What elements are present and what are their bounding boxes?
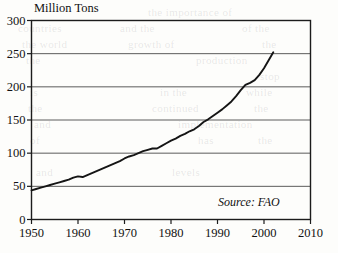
x-axis-tick-label: 1950 — [12, 226, 52, 241]
x-axis-tick-label: 2000 — [244, 226, 284, 241]
y-axis-tick-label: 150 — [0, 113, 26, 128]
y-axis-tick-label: 250 — [0, 46, 26, 61]
x-axis-tick-label: 1970 — [105, 226, 145, 241]
gridlines — [32, 54, 311, 187]
x-axis-tick-label: 1990 — [198, 226, 238, 241]
plot-area — [0, 0, 338, 253]
y-axis-tick-label: 100 — [0, 146, 26, 161]
chart-figure: the importance ofcountriesand theof thet… — [0, 0, 338, 253]
y-axis-tick-label: 50 — [0, 179, 26, 194]
y-axis-tick-label: 300 — [0, 13, 26, 28]
x-axis-tick-label: 2010 — [291, 226, 331, 241]
x-axis-tick-label: 1960 — [58, 226, 98, 241]
data-series-line — [32, 52, 274, 190]
x-axis-tick-label: 1980 — [151, 226, 191, 241]
source-annotation: Source: FAO — [218, 195, 280, 210]
y-axis-tick-label: 200 — [0, 79, 26, 94]
